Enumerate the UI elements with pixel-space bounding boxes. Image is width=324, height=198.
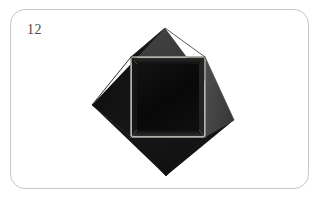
origami-figure-illustration — [0, 0, 324, 198]
inner-square-bevel-left — [132, 58, 137, 136]
inner-square-group — [131, 57, 205, 137]
inner-square-bevel-right — [199, 58, 204, 136]
diamond-facet-right — [205, 57, 234, 137]
inner-square-panel — [137, 64, 199, 130]
inner-square-bevel-top — [132, 58, 204, 64]
figure-card: 12 — [0, 0, 324, 198]
inner-square-bevel-bottom — [132, 130, 204, 136]
